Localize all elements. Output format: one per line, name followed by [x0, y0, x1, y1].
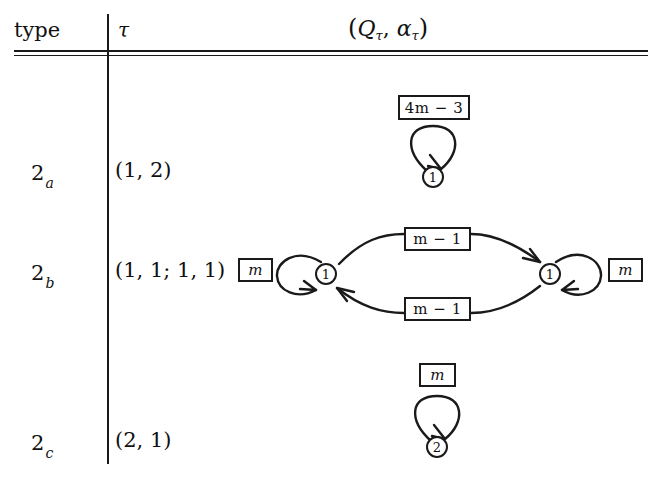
- top-edge-label-box: m − 1: [404, 227, 471, 251]
- bottom-edge-label-box: m − 1: [404, 297, 471, 321]
- table-figure: type τ (Qτ, ατ) 2a (1, 2) 4m − 3 1 2b (1…: [0, 0, 662, 478]
- state-node: 2: [426, 436, 448, 458]
- state-node: 1: [315, 263, 337, 285]
- transition-label-box: 4m − 3: [398, 95, 470, 120]
- state-node: 1: [539, 263, 561, 285]
- transition-label-box: m: [419, 363, 456, 387]
- left-loop-label-box: m: [238, 258, 273, 282]
- self-loop-edge: [0, 0, 662, 478]
- automaton-2c: m 2: [0, 0, 662, 478]
- state-node: 1: [422, 166, 444, 188]
- right-loop-label-box: m: [608, 258, 643, 282]
